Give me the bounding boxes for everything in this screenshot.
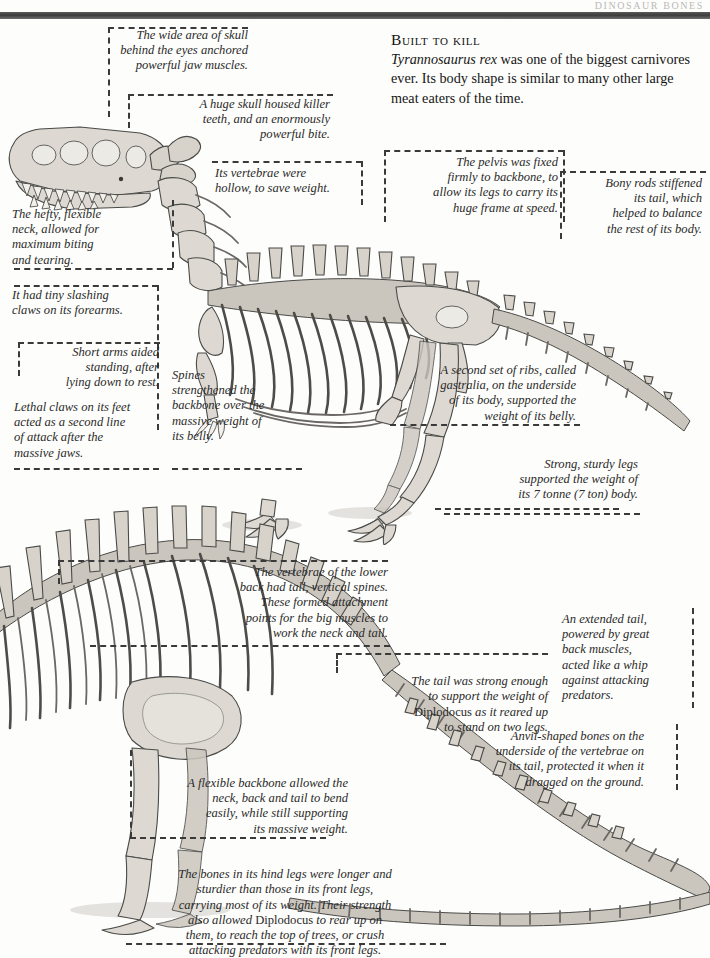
page-header-rule [0,12,710,19]
callout-anvil-bones-text: Anvil-shaped bones on the underside of t… [422,729,644,790]
callout-gastralia: A second set of ribs, called gastralia, … [396,363,576,424]
callout-foot-claws-rule-bottom [14,468,159,470]
callout-anvil-bones-rule-right [676,724,678,790]
callout-pelvis-rule-top [384,150,564,152]
callout-lower-back-vertebrae-text: The vertebrae of the lower back had tall… [210,565,388,641]
callout-foot-claws-text: Lethal claws on its feet acted as a seco… [14,400,164,461]
intro-block: Built to kill Tyrannosaurus rex was one … [391,31,691,108]
callout-bony-rods-rule-top [560,171,706,173]
callout-skull-width: The wide area of skull behind the eyes a… [108,28,248,74]
callout-short-arms-rule-top [18,342,160,344]
callout-anvil-bones: Anvil-shaped bones on the underside of t… [422,729,644,790]
callout-huge-skull-text: A huge skull housed killer teeth, and an… [160,97,330,143]
callout-forearm-claws-rule-top [14,285,158,287]
callout-forearm-claws-text: It had tiny slashing claws on its forear… [12,288,162,318]
callout-legs-text: Strong, sturdy legs supported the weight… [462,457,638,503]
callout-pelvis-text: The pelvis was fixed firmly to backbone,… [392,155,558,216]
callout-tail-strength-rule-top [336,653,548,655]
callout-huge-skull-rule-left [128,94,130,128]
callout-bony-rods: Bony rods stiffened its tail, which help… [566,176,702,237]
callout-hind-legs: The bones in its hind legs were longer a… [134,852,436,958]
callout-lower-back-rule-left [58,560,60,584]
callout-neck-text: The hefty, flexible neck, allowed for ma… [12,207,172,268]
callout-flexible-backbone-rule-left [130,750,132,838]
callout-gastralia-rule-bottom [390,424,580,426]
intro-heading: Built to kill [391,31,691,48]
callout-pelvis-leader [435,508,619,510]
intro-body: Tyrannosaurus rex was one of the biggest… [391,50,691,108]
callout-lower-back-rule-top [58,560,388,562]
callout-tail-strength: The tail was strong enough to support th… [340,659,548,735]
callout-neck: The hefty, flexible neck, allowed for ma… [12,207,172,268]
callout-neck-rule-bottom [14,268,173,270]
callout-spines: Spines strengthened the backbone over th… [172,368,300,444]
callout-vertebrae: Its vertebrae were hollow, to save weigh… [215,166,373,196]
callout-bony-rods-rule-left [560,171,562,239]
callout-vertebrae-text: Its vertebrae were hollow, to save weigh… [215,166,373,196]
callout-pelvis: The pelvis was fixed firmly to backbone,… [392,155,558,216]
callout-foot-claws: Lethal claws on its feet acted as a seco… [14,400,164,461]
callout-tail-strength-species: Diplodocus [414,705,472,719]
callout-tail-strength-rule-left [336,653,338,673]
callout-spines-rule-bottom [172,468,302,470]
callout-short-arms-rule-left [18,342,20,376]
callout-flexible-backbone-text: A flexible backbone allowed the neck, ba… [136,776,348,837]
callout-hind-legs-species: Diplodocus [255,913,313,927]
callout-legs: Strong, sturdy legs supported the weight… [462,457,638,503]
callout-pelvis-rule-left [384,150,386,222]
callout-extended-tail: An extended tail, powered by great back … [562,612,690,703]
callout-lower-back-rule-bottom [90,645,390,647]
callout-extended-tail-text: An extended tail, powered by great back … [562,612,690,703]
callout-short-arms-text: Short arms aided standing, after lying d… [24,345,159,391]
callout-skull-width-text: The wide area of skull behind the eyes a… [108,28,248,74]
callout-gastralia-text: A second set of ribs, called gastralia, … [396,363,576,424]
intro-species-name: Tyrannosaurus rex [391,51,497,67]
callout-vertebrae-rule-top [212,161,362,163]
callout-tail-strength-text: The tail was strong enough to support th… [340,659,548,735]
callout-spines-text: Spines strengthened the backbone over th… [172,368,300,444]
callout-legs-rule-bottom [444,513,640,515]
callout-huge-skull: A huge skull housed killer teeth, and an… [160,97,330,143]
callout-neck-rule-right [172,200,174,268]
callout-pelvis-rule-right [563,150,565,222]
callout-hind-legs-text: The bones in its hind legs were longer a… [134,852,436,958]
callout-lower-back-vertebrae: The vertebrae of the lower back had tall… [210,565,388,641]
callout-extended-tail-rule-right [692,608,694,708]
callout-forearm-claws: It had tiny slashing claws on its forear… [12,288,162,318]
callout-flexible-backbone-rule-bottom [130,837,326,839]
callout-huge-skull-rule-top [128,94,333,96]
callout-short-arms: Short arms aided standing, after lying d… [24,345,159,391]
page-header-title: DINOSAUR BONES [474,0,704,11]
callout-tail-strength-text-a: The tail was strong enough to support th… [411,674,548,703]
callout-bony-rods-text: Bony rods stiffened its tail, which help… [566,176,702,237]
callout-flexible-backbone: A flexible backbone allowed the neck, ba… [136,776,348,837]
